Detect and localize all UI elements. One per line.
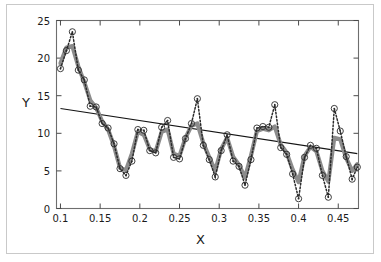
data-point-marker <box>57 66 63 72</box>
data-point-marker <box>123 172 129 178</box>
data-point-marker <box>349 176 355 182</box>
chart-figure: Y X 0510152025 0.10.150.20.250.30.350.40… <box>0 0 381 262</box>
plot-canvas: Y X 0510152025 0.10.150.20.250.30.350.40… <box>0 0 381 262</box>
smoothed-fit-curve <box>60 46 357 182</box>
plot-svg <box>0 0 381 262</box>
